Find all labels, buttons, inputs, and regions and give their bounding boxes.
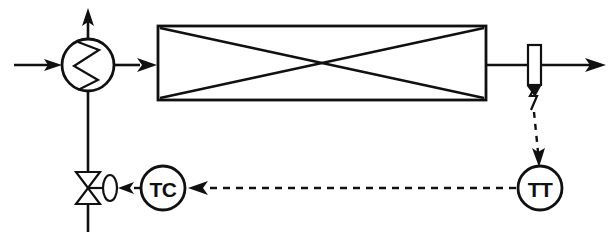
thermowell-body [528, 45, 541, 85]
shell-and-tube-vessel[interactable] [158, 26, 486, 100]
valve-input-arrowhead [118, 182, 134, 194]
sensor-to-transmitter-signal [532, 112, 545, 167]
thermowell-sensor[interactable] [527, 45, 541, 110]
temperature-controller[interactable]: TC [141, 166, 185, 210]
heat-exchanger[interactable] [62, 39, 114, 91]
pid-diagram-svg: TC TT [0, 0, 614, 242]
temperature-transmitter[interactable]: TT [518, 166, 562, 210]
temperature-transmitter-tag: TT [528, 178, 553, 201]
temperature-controller-tag: TC [150, 178, 177, 201]
transmitter-to-controller-signal [188, 181, 516, 195]
product-outlet-line [486, 58, 606, 72]
pid-diagram-canvas: TC TT [0, 0, 614, 242]
valve-body-upper [76, 172, 100, 188]
controller-to-valve-signal [118, 182, 141, 194]
valve-actuator-icon [103, 175, 117, 201]
control-valve[interactable] [76, 172, 117, 204]
thermowell-probe-tip [527, 86, 541, 97]
exchanger-to-vessel-line [114, 58, 157, 72]
feed-inlet-line [14, 59, 62, 71]
valve-body-lower [76, 188, 100, 204]
controller-input-arrowhead [188, 181, 208, 195]
